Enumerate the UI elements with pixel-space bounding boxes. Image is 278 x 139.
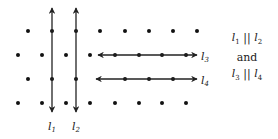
grid-dot	[16, 101, 20, 105]
grid-dot	[160, 101, 164, 105]
grid-dot	[40, 101, 44, 105]
label-l3: l3	[201, 50, 210, 64]
grid-dot	[123, 29, 127, 33]
grid-dot	[64, 53, 68, 57]
grid-dot	[195, 29, 199, 33]
parallel-note: l1 || l2 and l3 || l4	[222, 30, 272, 86]
grid-dot	[26, 77, 30, 81]
grid-dot	[64, 101, 68, 105]
label-l4: l4	[201, 74, 209, 88]
dot-grid	[16, 29, 199, 105]
grid-dot	[113, 101, 117, 105]
note-line-3: l3 || l4	[222, 66, 272, 86]
note-line-1: l1 || l2	[222, 30, 272, 50]
lines-group: l1l2l3l4	[48, 8, 210, 134]
grid-dot	[88, 53, 92, 57]
note-line-2: and	[222, 50, 272, 66]
grid-dot	[26, 29, 30, 33]
label-l2: l2	[72, 120, 81, 134]
label-l1: l1	[48, 120, 56, 134]
grid-dot	[16, 53, 20, 57]
grid-dot	[88, 101, 92, 105]
grid-dot	[147, 29, 151, 33]
grid-dot	[137, 101, 141, 105]
grid-dot	[40, 53, 44, 57]
grid-dot	[184, 101, 188, 105]
grid-dot	[171, 29, 175, 33]
grid-dot	[98, 29, 102, 33]
